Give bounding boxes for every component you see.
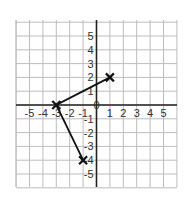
x-tick-label: -5	[25, 107, 35, 119]
y-tick-label: -2	[84, 127, 94, 139]
x-tick-label: 3	[134, 107, 140, 119]
x-tick-label: -4	[38, 107, 48, 119]
y-tick-label: -1	[84, 113, 94, 125]
y-tick-label: 3	[87, 58, 93, 70]
x-tick-label: 2	[120, 107, 126, 119]
origin-label: 0	[93, 99, 99, 111]
y-tick-label: 5	[87, 30, 93, 42]
y-tick-label: -5	[84, 168, 94, 180]
x-tick-label: 1	[107, 107, 113, 119]
x-tick-label: 4	[147, 107, 153, 119]
y-tick-label: 4	[87, 44, 93, 56]
coordinate-grid-chart: 0 -5-4-3-2-112345 54321-1-2-3-4-5	[0, 0, 190, 199]
x-tick-label: 5	[160, 107, 166, 119]
y-tick-label: -3	[84, 140, 94, 152]
axes: 0	[16, 20, 177, 187]
y-tick-label: 2	[87, 71, 93, 83]
x-tick-label: -2	[65, 107, 75, 119]
y-tick-label: -4	[84, 154, 94, 166]
